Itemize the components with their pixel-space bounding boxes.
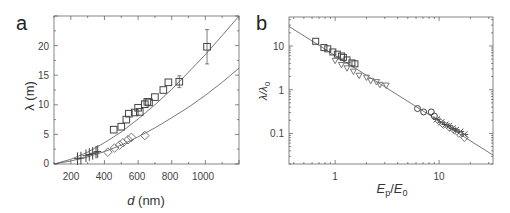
panel-a-fit-lines xyxy=(54,16,239,164)
panel-b-label: b xyxy=(256,12,267,34)
panel-b-y-axis-label: λ/λ0 xyxy=(257,81,272,101)
panel-a-y-axis-label: λ (m) xyxy=(22,81,37,111)
a-xtick-400: 400 xyxy=(96,171,113,182)
diamond-marker xyxy=(141,131,150,140)
a-ytick-0: 0 xyxy=(43,158,49,169)
b-xtick-10: 10 xyxy=(433,171,445,182)
circle-marker xyxy=(428,109,434,115)
square-marker xyxy=(110,126,117,133)
panel-a-ticks xyxy=(54,16,239,164)
triangle-marker xyxy=(332,58,338,63)
square-marker xyxy=(142,101,149,108)
a-ytick-10: 10 xyxy=(38,99,50,110)
fit-upper-line xyxy=(54,16,239,164)
b-xtick-1: 1 xyxy=(332,171,338,182)
a-xtick-600: 600 xyxy=(129,171,146,182)
panel-b-x-tick-labels: 1 10 xyxy=(332,171,445,182)
b-ytick-0.1: 0.1 xyxy=(270,128,284,139)
panel-a-frame xyxy=(54,16,239,164)
panel-b-data-points xyxy=(313,38,469,141)
circle-marker xyxy=(421,109,427,115)
panel-b-y-tick-labels: 10 1 0.1 xyxy=(270,41,284,139)
a-ytick-15: 15 xyxy=(38,70,50,81)
square-marker xyxy=(118,123,125,130)
triangle-marker xyxy=(338,62,344,67)
a-xtick-800: 800 xyxy=(162,171,179,182)
square-marker xyxy=(334,51,340,57)
panel-a-y-tick-labels: 0 5 10 15 20 xyxy=(38,41,50,169)
triangle-marker xyxy=(383,83,389,88)
panel-a-data-points xyxy=(74,30,210,165)
panel-a-label: a xyxy=(16,12,28,34)
a-xtick-200: 200 xyxy=(63,171,80,182)
panel-a-x-tick-labels: 200 400 600 800 1000 xyxy=(63,171,215,182)
square-marker xyxy=(160,87,167,94)
fit-lower-line xyxy=(54,68,239,164)
triangle-marker xyxy=(344,66,350,71)
b-ytick-10: 10 xyxy=(273,41,285,52)
a-ytick-5: 5 xyxy=(43,129,49,140)
triangle-marker xyxy=(350,69,356,74)
triangle-marker xyxy=(356,73,362,78)
square-marker xyxy=(165,79,172,86)
panel-a: a 200 400 600 800 1000 0 5 10 15 20 d (n… xyxy=(16,12,239,208)
panel-a-x-axis-label: d (nm) xyxy=(127,193,165,208)
figure: a 200 400 600 800 1000 0 5 10 15 20 d (n… xyxy=(0,0,510,213)
panel-b-x-axis-label: Ep/E0 xyxy=(377,181,408,198)
panel-b: b 1 10 10 1 0.1 Ep/E0 λ/λ0 xyxy=(256,12,493,198)
a-xtick-1000: 1000 xyxy=(192,171,215,182)
b-ytick-1: 1 xyxy=(278,85,284,96)
a-ytick-20: 20 xyxy=(38,41,50,52)
